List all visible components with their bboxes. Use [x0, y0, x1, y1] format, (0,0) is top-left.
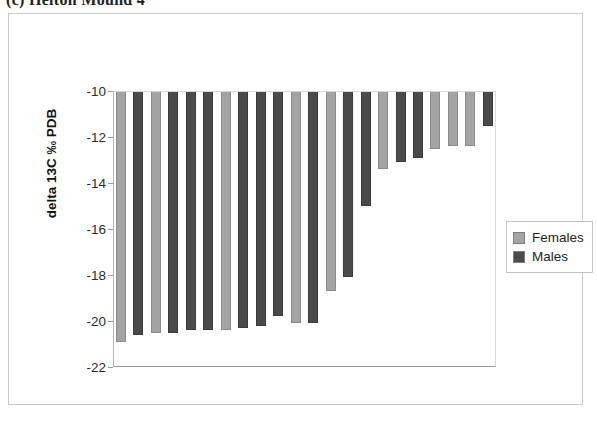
legend-swatch-icon [513, 232, 525, 244]
bar[interactable] [203, 91, 213, 330]
bar[interactable] [273, 91, 283, 316]
bar[interactable] [256, 91, 266, 326]
bar[interactable] [343, 91, 353, 277]
chart-legend: FemalesMales [506, 221, 593, 273]
bar[interactable] [378, 91, 388, 169]
bar[interactable] [238, 91, 248, 328]
bar[interactable] [413, 91, 423, 158]
bar[interactable] [168, 91, 178, 333]
bar[interactable] [221, 91, 231, 330]
chart-panel: -10-12-14-16-18-20-22 delta 13C ‰ PDB Fe… [8, 13, 583, 405]
legend-item-label: Females [532, 230, 584, 245]
figure-caption: (c) Helton Mound 4 [6, 0, 145, 11]
bar[interactable] [151, 91, 161, 333]
y-axis-title: delta 13C ‰ PDB [44, 84, 59, 244]
y-axis-tick-mark [108, 367, 113, 368]
y-axis: -10-12-14-16-18-20-22 [69, 91, 113, 367]
y-axis-tick: -14 [86, 176, 113, 190]
y-axis-tick: -10 [86, 84, 113, 98]
legend-item-label: Males [532, 249, 568, 264]
bar[interactable] [430, 91, 440, 149]
bar[interactable] [361, 91, 371, 206]
bar[interactable] [396, 91, 406, 162]
plot-area [113, 91, 496, 367]
y-axis-tick: -22 [86, 360, 113, 374]
legend-item[interactable]: Males [513, 247, 584, 266]
bar[interactable] [133, 91, 143, 335]
bar[interactable] [116, 91, 126, 342]
y-axis-tick: -16 [86, 222, 113, 236]
y-axis-tick: -12 [86, 130, 113, 144]
bar[interactable] [465, 91, 475, 146]
bar[interactable] [308, 91, 318, 323]
legend-swatch-icon [513, 251, 525, 263]
bar[interactable] [186, 91, 196, 330]
bar[interactable] [448, 91, 458, 146]
bar[interactable] [291, 91, 301, 323]
legend-item[interactable]: Females [513, 228, 584, 247]
bar-group [113, 91, 496, 367]
bar[interactable] [483, 91, 493, 126]
bar[interactable] [326, 91, 336, 291]
y-axis-tick: -18 [86, 268, 113, 282]
y-axis-tick: -20 [86, 314, 113, 328]
